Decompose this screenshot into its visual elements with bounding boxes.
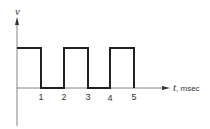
- pulse-train-chart: 1 2 3 4 5 v t, msec: [0, 0, 210, 129]
- x-axis-label: t, msec: [173, 81, 200, 93]
- y-axis-label: v: [15, 5, 20, 17]
- x-axis-arrow-icon: [162, 86, 170, 90]
- x-axis-unit: , msec: [176, 84, 200, 93]
- pulse-waveform: [17, 48, 134, 88]
- tick-label-4: 4: [107, 93, 112, 103]
- tick-label-3: 3: [85, 92, 90, 102]
- y-axis-arrow-icon: [15, 17, 19, 25]
- tick-label-5: 5: [131, 92, 136, 102]
- tick-label-2: 2: [61, 92, 66, 102]
- tick-label-1: 1: [38, 92, 43, 102]
